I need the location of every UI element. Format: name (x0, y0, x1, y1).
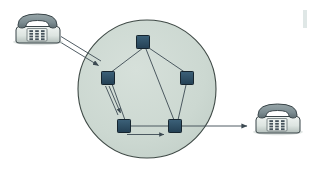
phone-source-handset[interactable] (18, 14, 57, 28)
phone-destination-handset[interactable] (258, 104, 297, 118)
phone-destination[interactable] (253, 104, 303, 135)
page-edge-mark (303, 10, 307, 28)
node-right-square[interactable] (181, 72, 194, 85)
node-top[interactable] (137, 36, 150, 49)
node-left[interactable] (102, 72, 115, 85)
node-bottom-left-square[interactable] (118, 120, 131, 133)
node-bottom-right[interactable] (169, 120, 182, 133)
phone-source[interactable] (13, 14, 63, 45)
node-bottom-left[interactable] (118, 120, 131, 133)
node-left-square[interactable] (102, 72, 115, 85)
node-top-square[interactable] (137, 36, 150, 49)
node-right[interactable] (181, 72, 194, 85)
network-diagram-figure: Two telephones connected through a cloud… (0, 0, 315, 169)
node-bottom-right-square[interactable] (169, 120, 182, 133)
diagram-canvas (0, 0, 315, 169)
